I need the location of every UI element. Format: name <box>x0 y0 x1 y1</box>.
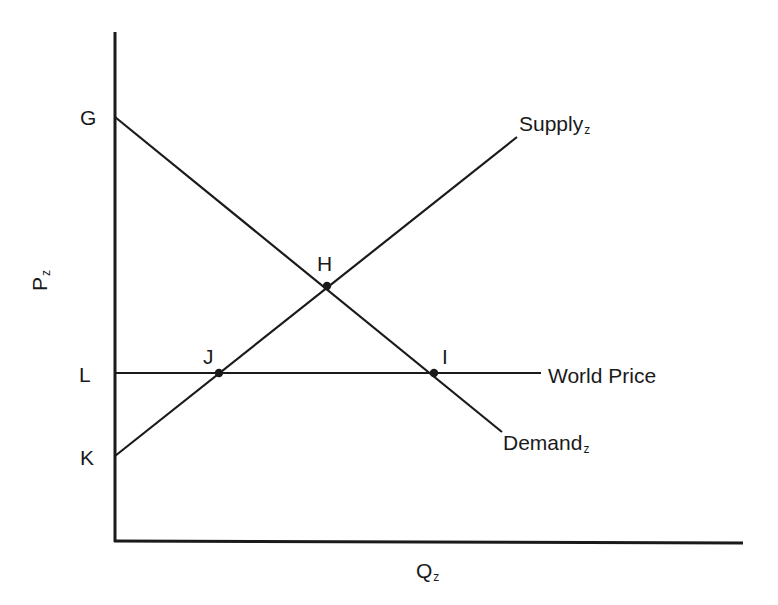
point-label-h: H <box>317 253 332 274</box>
world-price-diagram <box>0 0 778 605</box>
demand-label-text: Demand <box>503 431 582 454</box>
y-axis-label-text: P <box>28 277 51 291</box>
supply-label-subscript: z <box>584 123 590 137</box>
y-axis-label-subscript: z <box>39 270 53 276</box>
supply-label-text: Supply <box>519 112 583 135</box>
point-h-marker <box>323 282 331 290</box>
supply-label: Supplyz <box>519 113 590 136</box>
point-label-j: J <box>203 346 214 367</box>
supply-curve <box>115 137 517 456</box>
x-axis-label-text: Q <box>416 559 432 582</box>
point-j-marker <box>215 369 223 377</box>
world-price-label: World Price <box>548 365 656 386</box>
point-label-k: K <box>80 447 94 468</box>
demand-label-subscript: z <box>583 442 589 456</box>
point-label-i: I <box>442 346 448 367</box>
point-label-g: G <box>80 107 96 128</box>
x-axis <box>114 541 743 543</box>
x-axis-label: Qz <box>416 560 439 583</box>
point-i-marker <box>430 369 438 377</box>
demand-curve <box>115 117 502 432</box>
y-axis-label: Pz <box>28 270 53 291</box>
point-label-l: L <box>79 364 91 385</box>
demand-label: Demandz <box>503 432 589 455</box>
x-axis-label-subscript: z <box>433 570 439 584</box>
